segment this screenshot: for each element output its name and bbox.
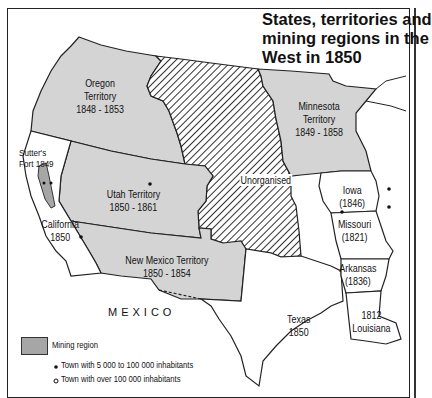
missouri-label: Missouri(1821)	[338, 218, 371, 244]
title-line: States, territories and	[262, 10, 432, 29]
iowa-label: Iowa(1846)	[339, 184, 365, 210]
unorganised-label: Unorganised	[240, 174, 292, 187]
map-title: States, territories and mining regions i…	[262, 10, 432, 67]
mexico-label: MEXICO	[108, 306, 175, 318]
legend-town-large-icon	[54, 379, 58, 383]
title-line: mining regions in the	[262, 29, 432, 48]
town-dot	[50, 182, 53, 185]
legend-mining-label: Mining region	[52, 340, 98, 350]
minnesota-label: MinnesotaTerritory1849 - 1858	[295, 100, 343, 139]
legend-mining-swatch	[21, 337, 48, 355]
louisiana-label: 1812Louisiana	[352, 309, 390, 335]
oregon-label: OregonTerritory1848 - 1853	[76, 77, 124, 116]
legend-town-large-label: Town with over 100 000 inhabitants	[61, 374, 181, 384]
new-mexico-label: New Mexico Territory1850 - 1854	[125, 254, 208, 280]
arkansas-label: Arkansas(1836)	[339, 262, 376, 288]
legend-town-small-icon	[54, 365, 58, 369]
town-dot	[387, 187, 391, 191]
title-line: West in 1850	[262, 48, 432, 67]
sutters-fort-label: Sutter'sFort 1849	[19, 147, 54, 169]
town-dot	[43, 182, 46, 185]
legend-town-small-label: Town with 5 000 to 100 000 inhabitants	[61, 360, 193, 370]
town-dot	[79, 235, 83, 239]
town-dot	[340, 210, 344, 214]
utah-label: Utah Territory1850 - 1861	[107, 188, 160, 214]
california-label: California1850	[41, 218, 79, 244]
town-dot	[387, 205, 391, 209]
texas-label: Texas1850	[287, 313, 310, 339]
town-dot	[148, 182, 152, 186]
